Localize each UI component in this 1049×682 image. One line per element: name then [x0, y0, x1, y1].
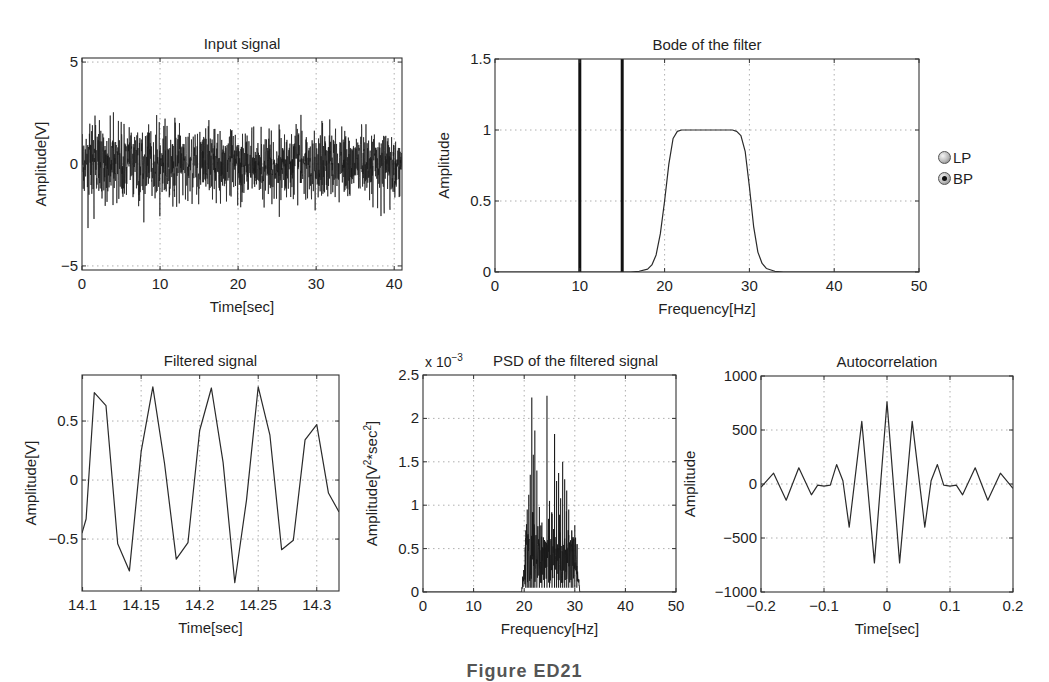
y-tick-label: 2: [411, 409, 419, 426]
x-tick-label: 40: [386, 275, 403, 292]
chart-bode: 0102030405000.511.5Bode of the filterFre…: [435, 36, 927, 317]
chart-title: Input signal: [204, 35, 281, 52]
x-tick-label: 50: [668, 597, 685, 614]
filter-type-radio-group: LP BP: [938, 147, 973, 189]
y-axis-label: Amplitude[V2*sec2]: [362, 421, 380, 546]
y-tick-label: 0: [411, 583, 419, 600]
x-axis-label: Time[sec]: [855, 620, 919, 637]
chart-autocorr: −0.2−0.100.10.2−1000−50005001000Autocorr…: [681, 353, 1023, 637]
plot-area: [82, 112, 402, 228]
x-tick-label: 14.2: [185, 596, 214, 613]
chart-title: Autocorrelation: [837, 353, 938, 370]
chart-input: 010203040−505Input signalTime[sec]Amplit…: [32, 35, 403, 315]
y-tick-label: 0.5: [470, 192, 491, 209]
radio-bp-label: BP: [953, 170, 973, 187]
chart-filtered: 14.114.1514.214.2514.3−0.500.5Filtered s…: [22, 352, 339, 636]
x-tick-label: 20: [516, 597, 533, 614]
y-tick-label: 1000: [724, 367, 757, 384]
y-tick-label: 1.5: [398, 453, 419, 470]
chart-title: Filtered signal: [164, 352, 257, 369]
axis-exponent: x 10−3: [425, 352, 463, 370]
x-tick-label: 40: [826, 277, 843, 294]
radio-button-selected-icon[interactable]: [938, 172, 951, 185]
y-axis-label: Amplitude[V]: [32, 121, 49, 206]
x-tick-label: 0: [491, 277, 499, 294]
y-tick-label: 1: [483, 121, 491, 138]
y-tick-label: 0.5: [57, 412, 78, 429]
y-tick-label: 1: [411, 496, 419, 513]
x-tick-label: 14.25: [239, 596, 277, 613]
chart-title: PSD of the filtered signal: [493, 352, 658, 369]
x-tick-label: 0: [78, 275, 86, 292]
radio-lp-label: LP: [953, 149, 971, 166]
y-axis-label: Amplitude: [435, 132, 452, 199]
x-tick-label: −0.1: [809, 597, 839, 614]
y-tick-label: −500: [723, 529, 757, 546]
y-tick-label: −5: [61, 257, 78, 274]
radio-lp[interactable]: LP: [938, 147, 973, 168]
x-tick-label: 0.1: [940, 597, 961, 614]
figure-caption: Figure ED21: [0, 661, 1049, 682]
x-tick-label: 14.15: [122, 596, 160, 613]
x-tick-label: 40: [617, 597, 634, 614]
y-tick-label: 0: [70, 155, 78, 172]
plot-area: [495, 59, 919, 272]
y-axis-label: Amplitude[V]: [22, 440, 39, 525]
x-tick-label: 50: [911, 277, 928, 294]
y-tick-label: 2.5: [398, 366, 419, 383]
plot-area: [423, 396, 676, 592]
chart-psd: 0102030405000.511.522.5x 10−3PSD of the …: [362, 352, 684, 637]
input-signal-line: [82, 112, 402, 228]
x-axis-label: Frequency[Hz]: [501, 620, 599, 637]
y-tick-label: −1000: [715, 583, 757, 600]
plot-area: [82, 387, 339, 583]
x-tick-label: 14.1: [68, 596, 97, 613]
y-tick-label: 1.5: [470, 50, 491, 67]
x-tick-label: 30: [741, 277, 758, 294]
x-tick-label: 30: [308, 275, 325, 292]
chart-title: Bode of the filter: [652, 36, 761, 53]
x-axis-label: Time[sec]: [210, 298, 274, 315]
x-tick-label: 30: [566, 597, 583, 614]
y-tick-label: 0: [70, 471, 78, 488]
y-tick-label: 500: [732, 421, 757, 438]
axes-frame: [495, 59, 919, 272]
radio-bp[interactable]: BP: [938, 168, 973, 189]
x-tick-label: 0: [883, 597, 891, 614]
x-tick-label: 10: [465, 597, 482, 614]
x-tick-label: 20: [230, 275, 247, 292]
x-tick-label: 0.2: [1003, 597, 1024, 614]
y-tick-label: 0: [483, 263, 491, 280]
y-tick-label: 0.5: [398, 540, 419, 557]
y-tick-label: −0.5: [48, 530, 78, 547]
x-axis-label: Frequency[Hz]: [658, 300, 756, 317]
filtered-line: [82, 387, 339, 583]
x-tick-label: 10: [152, 275, 169, 292]
x-tick-label: 20: [656, 277, 673, 294]
x-tick-label: 10: [571, 277, 588, 294]
x-axis-label: Time[sec]: [178, 619, 242, 636]
x-tick-label: 0: [419, 597, 427, 614]
y-tick-label: 0: [749, 475, 757, 492]
x-tick-label: 14.3: [302, 596, 331, 613]
y-axis-label: Amplitude: [681, 451, 698, 518]
radio-button-icon[interactable]: [938, 151, 951, 164]
y-tick-label: 5: [70, 53, 78, 70]
